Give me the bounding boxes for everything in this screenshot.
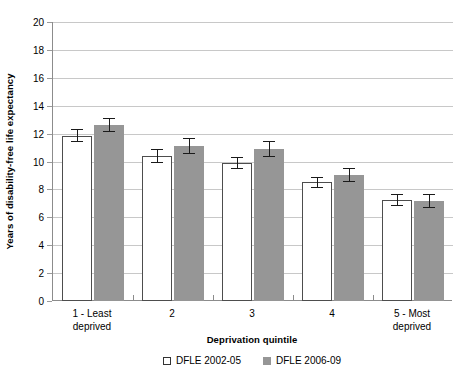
error-bar-3-series-2 xyxy=(263,141,275,156)
y-axis-tick-mark xyxy=(47,301,52,302)
error-bar-4-series-1 xyxy=(311,177,323,188)
x-axis-tick-label: 2 xyxy=(132,308,212,321)
bar-4-series-1 xyxy=(302,182,332,301)
y-axis-tick-label: 2 xyxy=(18,268,44,279)
legend-swatch-icon xyxy=(263,357,271,365)
error-bar-4-series-2 xyxy=(343,168,355,182)
x-axis-category-separator xyxy=(293,295,294,301)
error-bar-2-series-1 xyxy=(151,149,163,163)
bar-5-series-2 xyxy=(414,201,444,301)
x-axis-title: Deprivation quintile xyxy=(52,334,452,345)
y-axis-tick-mark xyxy=(47,50,52,51)
y-axis-tick-label: 16 xyxy=(18,72,44,83)
error-bar-1-series-2 xyxy=(103,118,115,132)
y-axis-tick-mark xyxy=(47,189,52,190)
error-bar-1-series-1 xyxy=(71,129,83,142)
legend-label: DFLE 2006-09 xyxy=(276,355,341,366)
y-axis-tick-label: 6 xyxy=(18,212,44,223)
y-axis-tick-mark xyxy=(47,273,52,274)
y-axis-tick-label: 10 xyxy=(18,156,44,167)
y-axis-tick-label: 18 xyxy=(18,44,44,55)
y-axis-tick-label: 4 xyxy=(18,240,44,251)
x-axis-category-separator xyxy=(213,295,214,301)
bar-3-series-2 xyxy=(254,149,284,301)
y-axis-tick-mark xyxy=(47,217,52,218)
legend-label: DFLE 2002-05 xyxy=(176,355,241,366)
bar-2-series-1 xyxy=(142,156,172,301)
y-axis-tick-mark xyxy=(47,162,52,163)
y-axis-tick-mark xyxy=(47,78,52,79)
y-axis-tick-label: 0 xyxy=(18,296,44,307)
x-axis-tick-label: 5 - Most deprived xyxy=(372,308,452,333)
y-axis-tick-mark xyxy=(47,106,52,107)
error-bar-2-series-2 xyxy=(183,138,195,153)
bar-5-series-1 xyxy=(382,200,412,301)
chart-legend: DFLE 2002-05DFLE 2006-09 xyxy=(52,355,452,366)
x-axis-tick-label: 1 - Least deprived xyxy=(52,308,132,333)
gridline xyxy=(53,106,453,107)
error-bar-3-series-1 xyxy=(231,157,243,170)
bar-chart: Years of disability-free life expectancy… xyxy=(0,0,466,375)
y-axis-tick-mark xyxy=(47,22,52,23)
y-axis-tick-labels: 02468101214161820 xyxy=(16,0,44,375)
legend-item-1[interactable]: DFLE 2002-05 xyxy=(163,355,241,366)
gridline xyxy=(53,78,453,79)
x-axis-category-separator xyxy=(133,295,134,301)
error-bar-5-series-1 xyxy=(391,194,403,207)
gridline xyxy=(53,50,453,51)
x-axis-tick-label: 3 xyxy=(212,308,292,321)
bar-1-series-2 xyxy=(94,125,124,301)
bar-1-series-1 xyxy=(62,136,92,301)
y-axis-tick-label: 20 xyxy=(18,17,44,28)
y-axis-tick-label: 8 xyxy=(18,184,44,195)
x-axis-tick-label: 4 xyxy=(292,308,372,321)
y-axis-tick-label: 12 xyxy=(18,128,44,139)
bar-2-series-2 xyxy=(174,146,204,301)
x-axis-category-separator xyxy=(373,295,374,301)
plot-area xyxy=(52,22,452,301)
y-axis-tick-mark xyxy=(47,134,52,135)
gridline xyxy=(53,22,453,23)
legend-swatch-icon xyxy=(163,357,171,365)
y-axis-tick-label: 14 xyxy=(18,100,44,111)
error-bar-5-series-2 xyxy=(423,194,435,208)
y-axis-tick-mark xyxy=(47,245,52,246)
bar-4-series-2 xyxy=(334,175,364,301)
bar-3-series-1 xyxy=(222,163,252,301)
legend-item-2[interactable]: DFLE 2006-09 xyxy=(263,355,341,366)
